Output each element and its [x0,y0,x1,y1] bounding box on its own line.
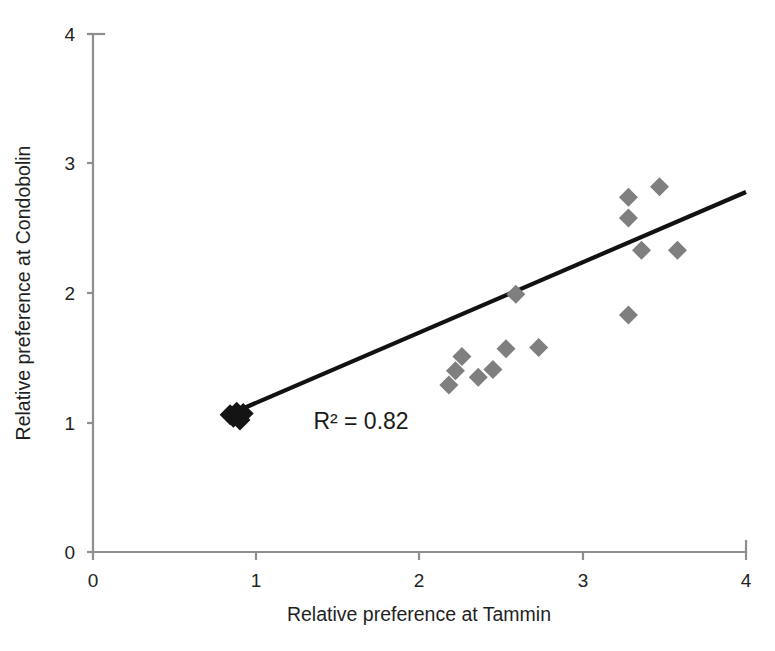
data-point [619,208,638,227]
x-tick-label-4: 4 [741,570,752,591]
chart-canvas: 4 3 2 1 0 0 1 2 3 4 Relative preference … [0,0,775,651]
axes-group [93,34,746,552]
y-tick-label-0: 0 [64,542,75,563]
x-tick-label-1: 1 [251,570,262,591]
data-point [619,306,638,325]
y-tick-label-4: 4 [64,24,75,45]
scatter-plot-figure: 4 3 2 1 0 0 1 2 3 4 Relative preference … [0,0,775,651]
x-tick-label-0: 0 [88,570,99,591]
y-tick-label-3: 3 [64,153,75,174]
x-tick-label-3: 3 [578,570,589,591]
y-axis-title: Relative preference at Condobolin [12,146,34,441]
data-point [619,188,638,207]
x-tick-label-2: 2 [414,570,425,591]
data-points-layer [220,177,687,430]
x-axis-title: Relative preference at Tammin [287,603,551,625]
data-point [650,177,669,196]
y-tick-label-2: 2 [64,283,75,304]
data-point [632,241,651,260]
r-squared-annotation: R² = 0.82 [313,408,408,434]
trend-line [228,192,746,415]
data-point [668,241,687,260]
data-point [497,339,516,358]
data-point [529,338,548,357]
y-tick-label-1: 1 [64,413,75,434]
x-axis-ticks [93,552,746,560]
